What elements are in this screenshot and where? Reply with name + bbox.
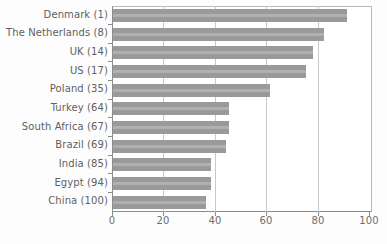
ytick-mark [108, 173, 112, 174]
bar-chart: Denmark (1) The Netherlands (8) UK (14) … [0, 0, 387, 244]
ytick-label-denmark: Denmark (1) [44, 9, 108, 20]
ytick-mark [108, 155, 112, 156]
bar-us [113, 65, 306, 78]
bar-india [113, 158, 211, 171]
bar-egypt [113, 177, 211, 190]
ytick-label-us: US (17) [70, 65, 108, 76]
xtick-label-40: 40 [195, 215, 235, 226]
xtick-label-20: 20 [143, 215, 183, 226]
xtick-label-100: 100 [349, 215, 387, 226]
bar-denmark [113, 9, 347, 22]
xtick-label-80: 80 [298, 215, 338, 226]
ytick-label-brazil: Brazil (69) [55, 139, 108, 150]
bar-uk [113, 46, 313, 59]
bar-china [113, 196, 206, 209]
ytick-label-poland: Poland (35) [50, 83, 108, 94]
bar-south-africa [113, 121, 229, 134]
ytick-label-uk: UK (14) [70, 46, 108, 57]
ytick-label-south-africa: South Africa (67) [22, 121, 108, 132]
ytick-label-netherlands: The Netherlands (8) [6, 27, 108, 38]
bar-turkey [113, 102, 229, 115]
ytick-mark [108, 99, 112, 100]
ytick-mark [108, 136, 112, 137]
ytick-mark [108, 61, 112, 62]
bar-netherlands [113, 28, 324, 41]
bar-brazil [113, 140, 226, 153]
ytick-mark [108, 192, 112, 193]
ytick-label-india: India (85) [59, 158, 108, 169]
ytick-mark [108, 24, 112, 25]
ytick-label-turkey: Turkey (64) [51, 102, 108, 113]
ytick-label-china: China (100) [48, 195, 108, 206]
ytick-mark [108, 80, 112, 81]
xtick-label-60: 60 [246, 215, 286, 226]
xtick-label-0: 0 [92, 215, 132, 226]
bar-poland [113, 84, 270, 97]
ytick-label-egypt: Egypt (94) [54, 177, 108, 188]
ytick-mark [108, 43, 112, 44]
ytick-mark [108, 117, 112, 118]
